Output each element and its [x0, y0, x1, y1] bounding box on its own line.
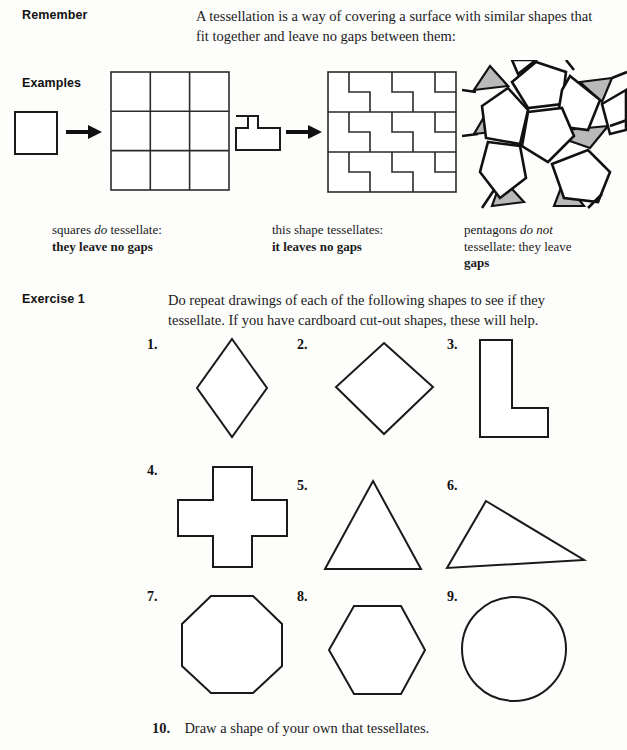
- caption-pentagons-line-1: pentagons do not: [464, 222, 619, 239]
- caption-zshape: this shape tessellates: it leaves no gap…: [272, 222, 462, 255]
- worksheet-page: Remember A tessellation is a way of cove…: [0, 0, 627, 750]
- item-number-8: 8.: [297, 589, 308, 605]
- caption-squares-line-2: they leave no gaps: [52, 239, 242, 256]
- caption-pentagons: pentagons do not tessellate: they leave …: [464, 222, 619, 272]
- shape-l: [476, 338, 554, 440]
- item-number-3: 3.: [447, 337, 458, 353]
- exercise-text-line-2: tessellate. If you have cardboard cut-ou…: [168, 310, 608, 330]
- caption-pentagons-line-3: gaps: [464, 255, 619, 272]
- exercise-text-line-1: Do repeat drawings of each of the follow…: [168, 290, 608, 310]
- arrow-right-icon: [286, 125, 322, 139]
- shape-square-rotated: [330, 340, 438, 438]
- zshape-tessellation-grid: [328, 72, 456, 192]
- caption-squares: squares do tessellate: they leave no gap…: [52, 222, 242, 255]
- item-number-6: 6.: [447, 478, 458, 494]
- square-tessellation-grid: [111, 72, 229, 190]
- item-number-7: 7.: [147, 589, 158, 605]
- shape-circle: [457, 594, 571, 708]
- item-number-10: 10.: [152, 720, 170, 736]
- item-number-4: 4.: [147, 463, 158, 479]
- item-number-5: 5.: [297, 478, 308, 494]
- example-squares-diagram: [8, 68, 238, 203]
- shape-octagon: [178, 594, 286, 696]
- remember-text-line-2: fit together and leave no gaps between t…: [196, 26, 616, 46]
- z-shape-icon: [236, 116, 280, 150]
- example-zshape-diagram: [228, 68, 463, 203]
- item-10-line: 10. Draw a shape of your own that tessel…: [152, 720, 429, 737]
- remember-label: Remember: [22, 8, 87, 22]
- item-number-9: 9.: [447, 589, 458, 605]
- shape-cross: [174, 464, 290, 570]
- remember-text: A tessellation is a way of covering a su…: [196, 6, 616, 46]
- exercise-label: Exercise 1: [22, 292, 85, 306]
- exercise-text: Do repeat drawings of each of the follow…: [168, 290, 608, 330]
- item-number-2: 2.: [297, 337, 308, 353]
- remember-text-line-1: A tessellation is a way of covering a su…: [196, 6, 616, 26]
- caption-pentagons-line-2: tessellate: they leave: [464, 239, 619, 256]
- caption-zshape-line-1: this shape tessellates:: [272, 222, 462, 239]
- caption-zshape-line-2: it leaves no gaps: [272, 239, 462, 256]
- arrow-right-icon: [66, 125, 102, 139]
- item-10-text: Draw a shape of your own that tessellate…: [184, 720, 429, 736]
- item-number-1: 1.: [147, 337, 158, 353]
- shape-equilateral-triangle: [320, 478, 426, 572]
- shape-hexagon: [325, 603, 429, 697]
- single-square-icon: [15, 112, 57, 154]
- shape-rhombus: [186, 336, 278, 440]
- caption-squares-line-1: squares do tessellate:: [52, 222, 242, 239]
- shape-scalene-triangle: [442, 498, 588, 574]
- example-pentagons-diagram: [462, 60, 627, 212]
